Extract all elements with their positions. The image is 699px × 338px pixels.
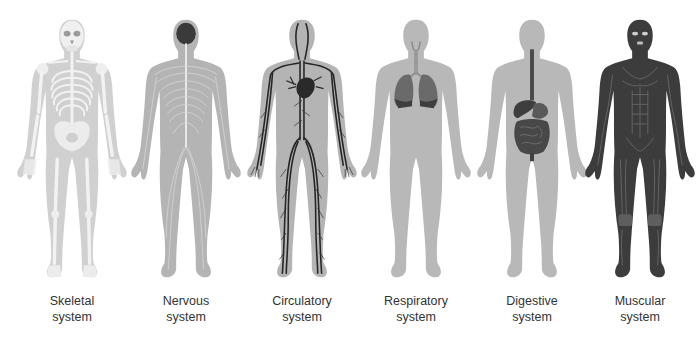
- caption-nervous-system: Nervous system: [128, 293, 244, 325]
- caption-line-2: system: [474, 309, 590, 325]
- caption-skeletal-system: Skeletal system: [14, 293, 130, 325]
- panel-nervous-system: Nervous system: [128, 0, 244, 338]
- nervous-figure: [128, 12, 244, 282]
- respiratory-figure: [358, 12, 474, 282]
- circulatory-figure: [244, 12, 360, 282]
- caption-line-2: system: [14, 309, 130, 325]
- caption-line-1: Respiratory: [358, 293, 474, 309]
- caption-digestive-system: Digestive system: [474, 293, 590, 325]
- caption-line-1: Digestive: [474, 293, 590, 309]
- panel-skeletal-system: Skeletal system: [14, 0, 130, 338]
- caption-line-2: system: [582, 309, 698, 325]
- caption-line-2: system: [358, 309, 474, 325]
- caption-line-1: Circulatory: [244, 293, 360, 309]
- caption-line-2: system: [244, 309, 360, 325]
- caption-muscular-system: Muscular system: [582, 293, 698, 325]
- panel-muscular-system: Muscular system: [582, 0, 698, 338]
- panel-respiratory-system: Respiratory system: [358, 0, 474, 338]
- caption-line-2: system: [128, 309, 244, 325]
- panel-circulatory-system: Circulatory system: [244, 0, 360, 338]
- caption-line-1: Muscular: [582, 293, 698, 309]
- caption-line-1: Skeletal: [14, 293, 130, 309]
- digestive-figure: [474, 12, 590, 282]
- caption-circulatory-system: Circulatory system: [244, 293, 360, 325]
- caption-line-1: Nervous: [128, 293, 244, 309]
- skeletal-figure: [14, 12, 130, 282]
- panel-digestive-system: Digestive system: [474, 0, 590, 338]
- caption-respiratory-system: Respiratory system: [358, 293, 474, 325]
- muscular-figure: [582, 12, 698, 282]
